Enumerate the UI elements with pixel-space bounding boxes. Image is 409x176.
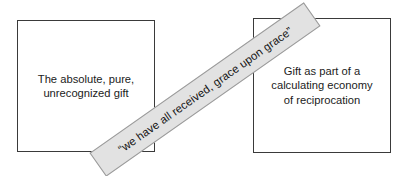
gift-economy-diagram: The absolute, pure, unrecognized gift Gi… [0, 0, 409, 176]
left-concept-box-label: The absolute, pure, unrecognized gift [34, 72, 138, 101]
right-concept-box-label: Gift as part of a calculating economy of… [267, 64, 376, 107]
